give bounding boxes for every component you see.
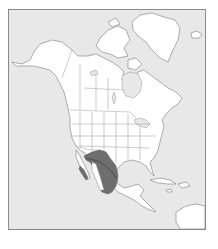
arctic-island-2 — [128, 58, 142, 70]
jamaica — [166, 189, 172, 192]
greenland — [132, 13, 180, 62]
iceland — [191, 31, 202, 38]
arctic-island-3 — [108, 18, 120, 27]
cuba — [150, 178, 176, 184]
south-america — [176, 204, 205, 229]
arctic-islands — [96, 26, 130, 58]
hispaniola — [178, 182, 190, 188]
north-america-map — [0, 0, 218, 249]
mainland — [12, 40, 182, 212]
